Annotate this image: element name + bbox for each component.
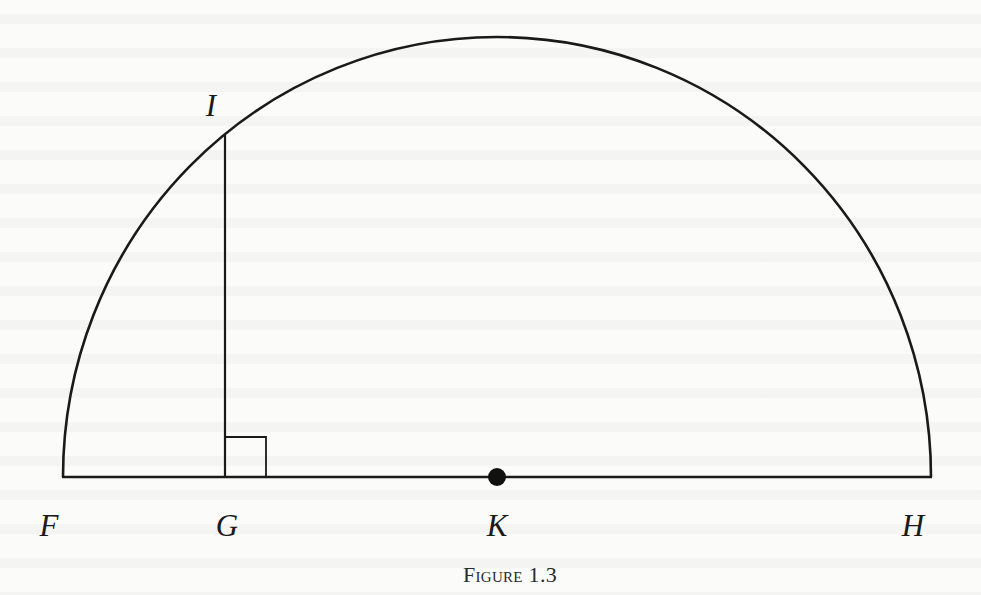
center-point-k: [488, 468, 506, 486]
right-angle-marker: [225, 437, 266, 477]
figure-caption: Figure 1.3: [463, 562, 557, 588]
book-page: I F G K H Figure 1.3: [0, 0, 981, 595]
semicircle-diagram: [0, 0, 981, 595]
label-point-h: H: [902, 510, 924, 541]
label-point-k: K: [487, 510, 508, 541]
semicircle-arc: [63, 37, 931, 477]
label-point-g: G: [216, 510, 238, 541]
label-point-f: F: [40, 510, 59, 541]
label-point-i: I: [206, 90, 216, 121]
